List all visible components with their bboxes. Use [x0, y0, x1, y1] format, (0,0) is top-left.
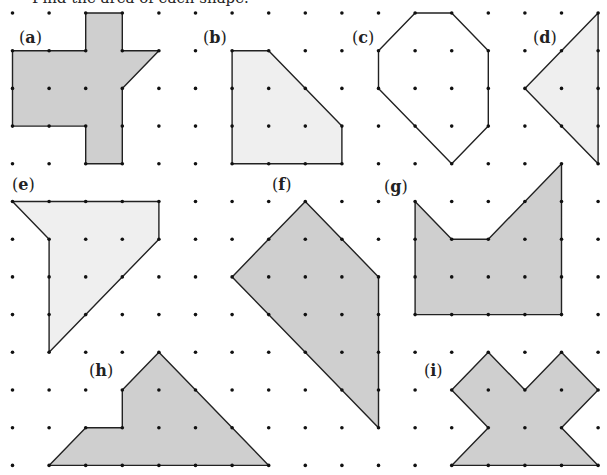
grid-dot	[413, 200, 417, 204]
grid-dot	[413, 87, 417, 91]
grid-dot	[267, 351, 271, 355]
grid-dot	[194, 11, 198, 15]
shape-i	[452, 352, 598, 465]
grid-dot	[47, 351, 51, 355]
grid-dot	[340, 200, 344, 204]
grid-dot	[596, 237, 600, 241]
grid-dot	[377, 200, 381, 204]
grid-dot	[84, 200, 88, 204]
grid-dot	[194, 124, 198, 128]
grid-dot	[304, 313, 308, 317]
grid-dot	[340, 313, 344, 317]
grid-dot	[523, 388, 527, 392]
shape-label-a: (a)	[19, 28, 42, 47]
grid-dot	[121, 11, 125, 15]
grid-dot	[523, 464, 527, 468]
shape-h	[49, 352, 269, 465]
grid-dot	[377, 11, 381, 15]
grid-dot	[450, 351, 454, 355]
grid-dot	[487, 124, 491, 128]
grid-dot	[413, 464, 417, 468]
grid-dot	[523, 124, 527, 128]
grid-dot	[487, 275, 491, 279]
grid-dot	[340, 87, 344, 91]
grid-dot	[157, 275, 161, 279]
grid-dot	[194, 200, 198, 204]
grid-dot	[560, 351, 564, 355]
grid-dot	[340, 388, 344, 392]
grid-dot	[194, 162, 198, 166]
grid-dot	[84, 351, 88, 355]
grid-dot	[560, 11, 564, 15]
grid-dot	[267, 200, 271, 204]
shape-label-e: (e)	[12, 175, 35, 194]
grid-dot	[267, 313, 271, 317]
grid-dot	[267, 237, 271, 241]
grid-dot	[487, 87, 491, 91]
grid-dot	[11, 351, 15, 355]
grid-dot	[157, 124, 161, 128]
grid-dot	[157, 351, 161, 355]
grid-dot	[560, 124, 564, 128]
grid-dot	[11, 11, 15, 15]
grid-dot	[450, 49, 454, 53]
grid-dot	[121, 200, 125, 204]
shape-label-b: (b)	[203, 28, 227, 47]
grid-dot	[377, 237, 381, 241]
grid-dot	[560, 313, 564, 317]
grid-dot	[11, 200, 15, 204]
grid-dot	[596, 87, 600, 91]
grid-dot	[11, 313, 15, 317]
grid-dot	[157, 313, 161, 317]
grid-dot	[413, 426, 417, 430]
grid-dot	[11, 426, 15, 430]
grid-dot	[413, 49, 417, 53]
grid-dot	[267, 464, 271, 468]
grid-dot	[84, 464, 88, 468]
grid-dot	[304, 162, 308, 166]
grid-dot	[230, 87, 234, 91]
grid-dot	[84, 426, 88, 430]
shape-label-c: (c)	[352, 28, 374, 47]
grid-dot	[304, 275, 308, 279]
grid-dot	[560, 388, 564, 392]
grid-dot	[560, 237, 564, 241]
grid-dot	[523, 275, 527, 279]
grid-dot	[267, 275, 271, 279]
grid-dot	[304, 237, 308, 241]
grid-dot	[340, 49, 344, 53]
grid-dot	[157, 87, 161, 91]
grid-dot	[84, 237, 88, 241]
grid-dot	[523, 49, 527, 53]
grid-dot	[304, 87, 308, 91]
grid-dot	[304, 200, 308, 204]
grid-dot	[450, 11, 454, 15]
grid-dot	[487, 426, 491, 430]
grid-dot	[11, 49, 15, 53]
grid-dot	[121, 162, 125, 166]
grid-dot	[413, 275, 417, 279]
grid-dot	[121, 464, 125, 468]
grid-dot	[340, 275, 344, 279]
grid-dot	[487, 162, 491, 166]
grid-dot	[47, 237, 51, 241]
dot-grid-worksheet: Find the area of each shape. (a)(b)(c)(d…	[0, 0, 607, 475]
grid-dot	[413, 124, 417, 128]
grid-dot	[230, 275, 234, 279]
grid-dot	[596, 124, 600, 128]
grid-dot	[560, 275, 564, 279]
grid-dot	[121, 426, 125, 430]
grid-dot	[194, 426, 198, 430]
grid-dot	[340, 11, 344, 15]
grid-dot	[377, 124, 381, 128]
grid-dot	[450, 388, 454, 392]
grid-dot	[194, 313, 198, 317]
grid-dot	[487, 464, 491, 468]
grid-dot	[487, 237, 491, 241]
shape-label-g: (g)	[384, 177, 408, 196]
grid-dot	[487, 388, 491, 392]
grid-dot	[377, 426, 381, 430]
grid-dot	[304, 124, 308, 128]
grid-dot	[596, 49, 600, 53]
grid-dot	[340, 162, 344, 166]
